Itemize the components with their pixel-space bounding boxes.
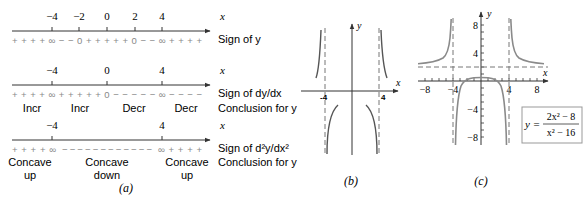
x-tick-label: −8 <box>420 84 431 95</box>
conclusion: down <box>94 169 120 181</box>
tick-label: −4 <box>46 10 58 22</box>
row-label: Sign of y <box>218 33 261 45</box>
curve-left-upper <box>316 30 321 78</box>
conclusion: up <box>181 169 193 181</box>
sign-chart-dydx: −4 0 4 x + + + + ∞ + + + + + 0 − − − − −… <box>12 64 297 114</box>
panel-c: y x −8 −4 4 8 8 4 −4 <box>418 8 582 188</box>
sign-chart-d2ydx2: −4 4 x + + + + ∞ − − − − − − − − − − − −… <box>8 119 297 181</box>
tick-label: 2 <box>132 10 138 22</box>
panel-a: −4 −2 0 2 4 x + + + + ∞ − − 0 + + + + + … <box>8 10 297 195</box>
axis-var-x: x <box>219 119 225 131</box>
caption-c: (c) <box>474 174 487 188</box>
equation-lhs: y = <box>524 118 540 130</box>
sign-chart-y: −4 −2 0 2 4 x + + + + ∞ − − 0 + + + + + … <box>12 10 261 46</box>
conclusion: Decr <box>174 102 198 114</box>
conclusion: Concave <box>8 156 51 168</box>
tick-label: 0 <box>104 64 110 76</box>
curve-right-branch <box>511 19 544 64</box>
sign-row-left: + + + + ∞ <box>12 144 56 155</box>
curve-right-upper <box>381 30 387 78</box>
axis-var-x: x <box>219 10 225 22</box>
tick-label: 4 <box>159 119 165 131</box>
tick-label: 4 <box>159 10 165 22</box>
conclusion: up <box>24 169 36 181</box>
equation-numerator: 2x² − 8 <box>547 111 576 122</box>
panel-b: y x -4 4 (b) <box>301 20 401 188</box>
conclusion: Incr <box>23 102 42 114</box>
x-axis-label: x <box>395 77 401 88</box>
tick-label: 0 <box>104 10 110 22</box>
y-tick-label: 8 <box>473 20 478 31</box>
tick-label: −2 <box>73 10 85 22</box>
row-label: Sign of d²y/dx² <box>218 142 289 154</box>
row-label: Sign of dy/dx <box>218 87 282 99</box>
y-tick-label: −4 <box>467 104 478 115</box>
conclusion: Concave <box>165 156 208 168</box>
y-axis-label: y <box>486 8 492 19</box>
conclusion: Decr <box>122 102 146 114</box>
equation-denominator: x² − 16 <box>547 127 576 138</box>
caption-a: (a) <box>119 181 133 195</box>
curve-left-lower <box>327 105 338 154</box>
y-tick-label: −8 <box>467 132 478 143</box>
tick-label: −4 <box>46 64 58 76</box>
caption-b: (b) <box>344 174 358 188</box>
sign-row-middle: − − − − − − − − − − − − <box>62 144 152 155</box>
asymptote-label: -4 <box>320 93 328 102</box>
y-tick-label: 4 <box>473 48 478 59</box>
x-axis-label: x <box>542 67 548 78</box>
axis-var-x: x <box>219 64 225 76</box>
asymptote-label: 4 <box>381 93 386 102</box>
curve-right-lower <box>366 105 377 154</box>
y-axis-label: y <box>356 20 362 31</box>
x-tick-label: 8 <box>535 84 540 95</box>
conclusion-label: Conclusion for y <box>218 156 297 168</box>
conclusion-label: Conclusion for y <box>218 102 297 114</box>
tick-label: −4 <box>46 119 58 131</box>
tick-label: 4 <box>159 64 165 76</box>
sign-row-right: ∞ + + + + <box>158 144 202 155</box>
conclusion: Incr <box>71 102 90 114</box>
figure-canvas: −4 −2 0 2 4 x + + + + ∞ − − 0 + + + + + … <box>0 0 586 197</box>
sign-row: + + + + ∞ − − 0 + + + + + 0 − − ∞ + + + … <box>12 35 202 46</box>
conclusion: Concave <box>85 156 128 168</box>
sign-row: + + + + ∞ + + + + + 0 − − − − − ∞ − − − … <box>12 89 202 100</box>
curve-left-branch <box>418 19 451 64</box>
